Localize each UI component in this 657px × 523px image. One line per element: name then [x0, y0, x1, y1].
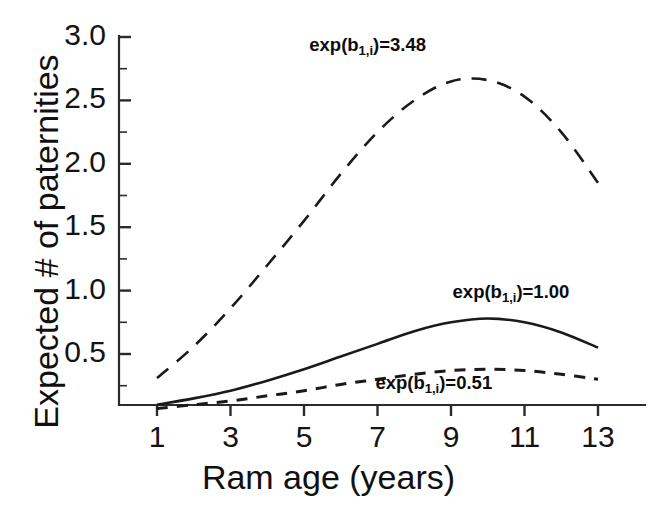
series-annotation: exp(b1,i)=0.51 — [375, 372, 492, 396]
annotation-subscript: 1,i — [425, 381, 439, 396]
x-tick-label: 5 — [274, 420, 334, 454]
series-annotation: exp(b1,i)=3.48 — [309, 34, 426, 58]
annotation-suffix: )=3.48 — [373, 34, 426, 55]
figure-panel: 0.51.01.52.02.53.0 135791113 Expected # … — [0, 0, 657, 523]
data-curves — [157, 78, 598, 408]
annotation-prefix: exp(b — [453, 281, 502, 302]
y-axis-ticks — [119, 37, 131, 386]
x-axis-ticks — [157, 405, 598, 416]
annotation-subscript: 1,i — [359, 43, 373, 58]
axis-lines — [119, 36, 645, 405]
x-tick-label: 3 — [201, 420, 261, 454]
x-tick-label: 7 — [348, 420, 408, 454]
series-annotation: exp(b1,i)=1.00 — [453, 281, 570, 305]
series-curve — [157, 78, 598, 378]
annotation-suffix: )=0.51 — [439, 372, 492, 393]
annotation-suffix: )=1.00 — [516, 281, 569, 302]
x-axis-title: Ram age (years) — [0, 458, 657, 497]
y-axis-title: Expected # of paternities — [27, 12, 66, 472]
x-tick-label: 11 — [495, 420, 555, 454]
x-tick-label: 1 — [127, 420, 187, 454]
x-tick-label: 13 — [568, 420, 628, 454]
x-tick-label: 9 — [421, 420, 481, 454]
annotation-subscript: 1,i — [502, 290, 516, 305]
annotation-prefix: exp(b — [309, 34, 358, 55]
annotation-prefix: exp(b — [375, 372, 424, 393]
